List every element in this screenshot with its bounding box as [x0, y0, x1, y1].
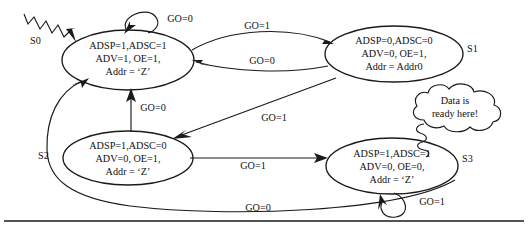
state-s3-line-3: Addr = ‘Z’	[370, 174, 415, 185]
transition-s0-s1-label: GO=1	[244, 20, 270, 31]
transition-s1-s0[interactable]: GO=0	[191, 55, 328, 71]
state-s1-line-3: Addr = Addr0	[365, 61, 422, 72]
state-s3-line-1: ADSP=1,ADSC=1	[353, 148, 430, 159]
state-machine-diagram: ADSP=1,ADSC=1 ADV=1, OE=1, Addr = ‘Z’ S0…	[0, 0, 532, 232]
reset-arrowhead	[66, 28, 76, 42]
fsm-canvas: ADSP=1,ADSC=1 ADV=1, OE=1, Addr = ‘Z’ S0…	[0, 0, 532, 232]
state-s3-line-2: ADV=0, OE=0,	[360, 161, 425, 172]
state-s2-line-1: ADSP=1,ADSC=0	[89, 140, 166, 151]
transition-s3-self-label: GO=1	[419, 196, 445, 207]
transition-s0-s1[interactable]: GO=1	[192, 20, 334, 50]
transition-s2-s0-label: GO=0	[140, 102, 166, 113]
state-s0-line-2: ADV=1, OE=1,	[96, 53, 161, 64]
transition-s1-s2-arrowhead	[172, 130, 192, 139]
state-s0-line-3: Addr = ‘Z’	[106, 66, 151, 77]
transition-s2-s3[interactable]: GO=1	[190, 153, 328, 171]
state-node-s2[interactable]: ADSP=1,ADSC=0 ADV=0, OE=1, Addr = ‘Z’ S2	[38, 131, 193, 185]
data-ready-callout: Data is ready here!	[413, 84, 500, 157]
transition-s1-s2-label: GO=1	[261, 112, 287, 123]
state-s3-label: S3	[462, 153, 473, 164]
transition-s3-self[interactable]: GO=1	[378, 193, 445, 217]
callout-line-2: ready here!	[432, 108, 478, 119]
state-node-s1[interactable]: ADSP=0,ADSC=0 ADV=0, OE=1, Addr = Addr0 …	[325, 26, 478, 82]
transition-s3-self-path	[381, 193, 405, 217]
state-s0-line-1: ADSP=1,ADSC=1	[89, 40, 166, 51]
transition-s0-self-label: GO=0	[167, 13, 193, 24]
state-s1-line-2: ADV=0, OE=1,	[362, 48, 427, 59]
state-s2-line-2: ADV=0, OE=1,	[96, 153, 161, 164]
state-s0-label: S0	[30, 35, 41, 46]
state-node-s3[interactable]: ADSP=1,ADSC=1 ADV=0, OE=0, Addr = ‘Z’ S3	[326, 138, 473, 194]
transition-s2-s3-label: GO=1	[240, 160, 266, 171]
transition-s1-s0-label: GO=0	[249, 55, 275, 66]
transition-s3-s0-label: GO=0	[245, 202, 271, 213]
state-node-s0[interactable]: ADSP=1,ADSC=1 ADV=1, OE=1, Addr = ‘Z’ S0	[30, 30, 194, 90]
reset-squiggle-path	[24, 14, 69, 37]
callout-line-1: Data is	[441, 95, 470, 106]
transition-s1-s2[interactable]: GO=1	[172, 78, 336, 139]
transition-s0-s1-path	[192, 32, 330, 50]
state-s1-label: S1	[467, 43, 478, 54]
transition-s1-s2-path	[179, 78, 336, 136]
state-s2-line-3: Addr = ‘Z’	[106, 166, 151, 177]
transition-s2-s0[interactable]: GO=0	[126, 88, 166, 132]
state-s1-line-1: ADSP=0,ADSC=0	[355, 35, 432, 46]
